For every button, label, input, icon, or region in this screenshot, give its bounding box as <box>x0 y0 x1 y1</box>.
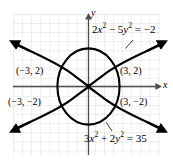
ellipse-equals: = <box>124 132 136 144</box>
ellipse-equation-label: 3x2 + 2y2 = 35 <box>84 133 147 144</box>
y-axis-label: y <box>91 8 95 18</box>
hyperbola-equation-label: 2x2 − 5y2 = −2 <box>92 24 155 35</box>
hyperbola-operator: − <box>106 23 118 35</box>
x-axis-label: x <box>163 80 167 90</box>
point-label-bottom-right: (3, −2) <box>120 97 147 107</box>
point-label-top-left: (−3, 2) <box>16 66 43 76</box>
point-label-bottom-left: (−3, −2) <box>8 97 41 107</box>
hyperbola-equals: = <box>132 23 144 35</box>
point-label-top-right: (3, 2) <box>120 66 142 76</box>
conic-intersection-figure: 2x2 − 5y2 = −2 3x2 + 2y2 = 35 (−3, 2) (−… <box>0 0 173 163</box>
hyperbola-rhs: −2 <box>144 23 156 35</box>
ellipse-operator: + <box>98 132 110 144</box>
ellipse-rhs: 35 <box>136 132 147 144</box>
